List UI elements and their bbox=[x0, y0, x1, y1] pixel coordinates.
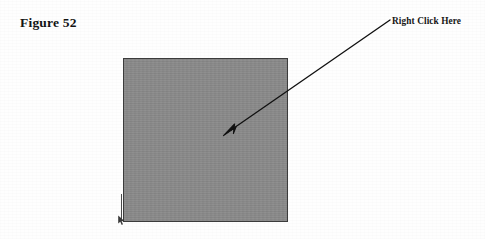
figure-caption: Figure 52 bbox=[20, 15, 77, 31]
resize-handle-glyph bbox=[117, 215, 127, 226]
gray-content-area[interactable] bbox=[123, 58, 288, 222]
figure-canvas: Figure 52 Right Click Here bbox=[0, 0, 485, 239]
right-click-here-label: Right Click Here bbox=[392, 15, 461, 27]
resize-handle-marker-icon[interactable] bbox=[117, 212, 127, 223]
